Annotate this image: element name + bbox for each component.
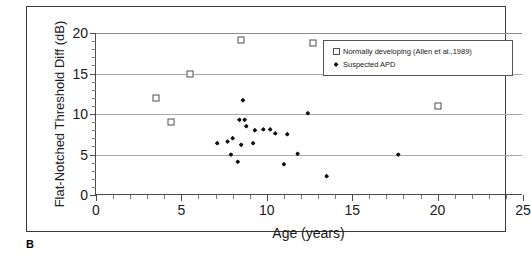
x-tick-2 (130, 195, 131, 199)
gridline-y-5 (96, 155, 522, 156)
x-tick-17 (386, 195, 387, 199)
data-point-s0-1 (168, 119, 175, 126)
x-tick-14 (335, 195, 336, 199)
y-tick-9 (92, 122, 96, 123)
x-tick-19 (421, 195, 422, 199)
data-point-s1-7 (273, 131, 278, 136)
x-tick-9 (250, 195, 251, 199)
x-tick-4 (164, 195, 165, 199)
data-point-s1-14 (251, 141, 256, 146)
x-tick-25 (523, 195, 524, 201)
x-tick-23 (489, 195, 490, 199)
y-tick-10 (90, 114, 96, 115)
y-tick-13 (92, 90, 96, 91)
x-tick-21 (455, 195, 456, 199)
x-tick-6 (198, 195, 199, 199)
x-tick-22 (472, 195, 473, 199)
y-tick-label-15: 15 (72, 67, 88, 81)
data-point-s1-5 (261, 127, 266, 132)
data-point-s0-2 (186, 70, 193, 77)
data-point-s1-13 (239, 142, 244, 147)
x-tick-3 (147, 195, 148, 199)
data-point-s1-4 (252, 128, 257, 133)
data-point-s1-10 (215, 141, 220, 146)
y-tick-label-20: 20 (72, 26, 88, 40)
x-tick-1 (113, 195, 114, 199)
y-tick-5 (90, 155, 96, 156)
y-tick-15 (90, 74, 96, 75)
x-tick-label-10: 10 (259, 203, 275, 217)
y-tick-label-10: 10 (72, 107, 88, 121)
x-tick-20 (438, 195, 439, 201)
data-point-s1-19 (324, 174, 329, 179)
x-tick-label-15: 15 (344, 203, 360, 217)
x-tick-12 (301, 195, 302, 199)
gridline-y-20 (96, 33, 522, 34)
y-tick-16 (92, 65, 96, 66)
x-tick-10 (267, 195, 268, 201)
y-tick-label-5: 5 (80, 148, 88, 162)
data-point-s1-0 (240, 98, 245, 103)
data-point-s1-2 (242, 117, 247, 122)
y-tick-20 (90, 33, 96, 34)
y-tick-12 (92, 98, 96, 99)
legend-item-normally-developing: Normally developing (Allen et al.,1989) (329, 45, 507, 58)
y-tick-1 (92, 187, 96, 188)
y-tick-7 (92, 138, 96, 139)
x-tick-24 (506, 195, 507, 199)
x-tick-label-0: 0 (92, 203, 100, 217)
data-point-s0-5 (434, 102, 441, 109)
y-tick-14 (92, 82, 96, 83)
chart-frame: Flat-Notched Threshold Diff (dB) Age (ye… (26, 6, 506, 232)
y-tick-3 (92, 171, 96, 172)
data-point-s1-8 (285, 132, 290, 137)
data-point-s0-3 (238, 37, 245, 44)
y-tick-17 (92, 57, 96, 58)
data-point-s1-1 (237, 117, 242, 122)
data-point-s1-17 (281, 162, 286, 167)
filled-diamond-icon (329, 62, 343, 67)
chart-legend: Normally developing (Allen et al.,1989) … (323, 40, 513, 76)
open-square-icon (329, 48, 343, 55)
y-tick-label-0: 0 (80, 188, 88, 202)
y-tick-19 (92, 41, 96, 42)
x-tick-5 (181, 195, 182, 201)
x-tick-15 (352, 195, 353, 201)
y-axis-label: Flat-Notched Threshold Diff (dB) (52, 21, 67, 208)
y-tick-11 (92, 106, 96, 107)
y-tick-2 (92, 179, 96, 180)
x-tick-label-5: 5 (177, 203, 185, 217)
x-tick-label-20: 20 (430, 203, 446, 217)
legend-label: Normally developing (Allen et al.,1989) (343, 47, 472, 56)
figure-caption: B (26, 238, 34, 250)
x-tick-8 (233, 195, 234, 199)
y-tick-4 (92, 163, 96, 164)
y-tick-6 (92, 146, 96, 147)
data-point-s1-15 (228, 152, 233, 157)
data-point-s1-6 (268, 127, 273, 132)
x-tick-11 (284, 195, 285, 199)
legend-label: Suspected APD (343, 60, 396, 69)
data-point-s1-11 (225, 139, 230, 144)
x-tick-label-25: 25 (515, 203, 531, 217)
data-point-s1-16 (235, 159, 240, 164)
x-tick-16 (369, 195, 370, 199)
data-point-s0-4 (309, 39, 316, 46)
x-tick-18 (403, 195, 404, 199)
legend-item-suspected-apd: Suspected APD (329, 58, 507, 71)
data-point-s1-12 (230, 136, 235, 141)
data-point-s1-20 (396, 152, 401, 157)
y-tick-8 (92, 130, 96, 131)
data-point-s0-0 (152, 94, 159, 101)
x-tick-13 (318, 195, 319, 199)
y-tick-18 (92, 49, 96, 50)
data-point-s1-3 (244, 124, 249, 129)
x-axis-label: Age (years) (95, 225, 522, 241)
x-tick-0 (96, 195, 97, 201)
x-tick-7 (216, 195, 217, 199)
